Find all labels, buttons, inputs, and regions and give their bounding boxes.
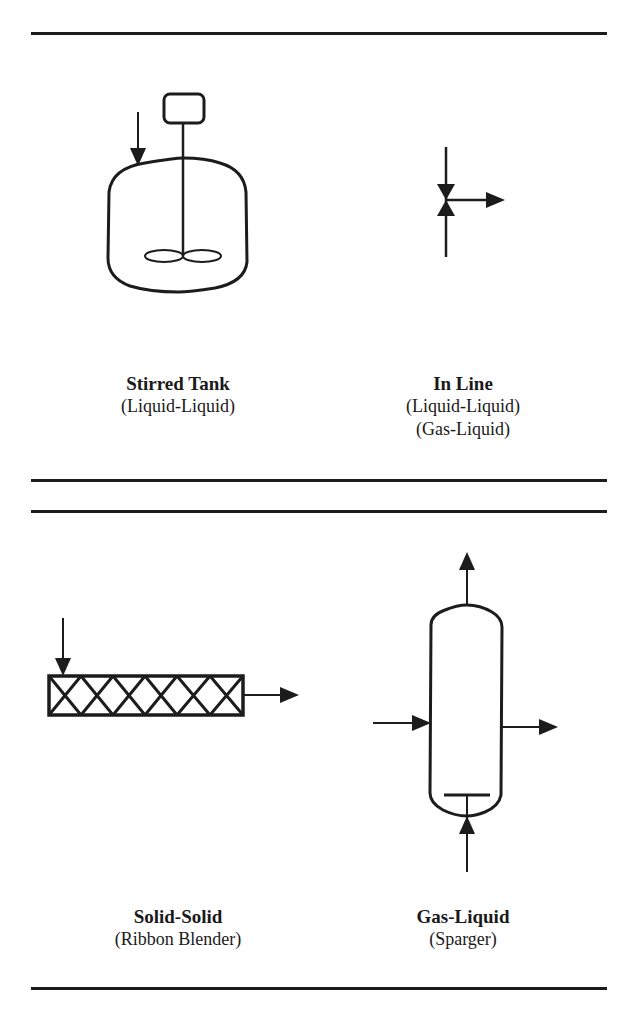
panel-title: Stirred Tank (48, 372, 308, 395)
outlet-arrow-icon (486, 192, 505, 208)
liquid-inlet-arrow-icon (412, 715, 431, 731)
panel-subtitle: (Ribbon Blender) (48, 928, 308, 951)
stirred-tank-icon (108, 94, 247, 292)
ribbon-blender-icon (49, 618, 299, 715)
motor-icon (164, 94, 204, 123)
in-line-mixer-icon (437, 147, 505, 257)
panel-subtitle: (Liquid-Liquid) (48, 395, 308, 418)
impeller-blade-left (145, 250, 183, 262)
panel-title: Gas-Liquid (333, 905, 593, 928)
gas-outlet-arrow-icon (459, 552, 475, 570)
gas-inlet-arrow-icon (459, 816, 475, 834)
ribbon-pattern (49, 676, 243, 715)
panel-subtitle: (Liquid-Liquid) (333, 395, 593, 418)
column-vessel (430, 605, 502, 816)
panel-title: Solid-Solid (48, 905, 308, 928)
liquid-outlet-arrow-icon (539, 719, 558, 735)
panel-subtitle: (Sparger) (333, 928, 593, 951)
label-in-line: In Line (Liquid-Liquid) (Gas-Liquid) (333, 372, 593, 441)
mixer-diagrams (0, 0, 637, 1032)
valve-triangle-bottom (437, 200, 455, 216)
impeller-blade-right (183, 250, 221, 262)
label-solid-solid: Solid-Solid (Ribbon Blender) (48, 905, 308, 951)
tank-vessel (108, 158, 247, 292)
outlet-arrow-icon (280, 687, 299, 703)
panel-subtitle: (Gas-Liquid) (333, 418, 593, 441)
panel-title: In Line (333, 372, 593, 395)
valve-triangle-top (437, 184, 455, 200)
label-stirred-tank: Stirred Tank (Liquid-Liquid) (48, 372, 308, 418)
sparger-column-icon (373, 552, 558, 872)
label-gas-liquid: Gas-Liquid (Sparger) (333, 905, 593, 951)
feed-arrow-icon (55, 658, 71, 676)
